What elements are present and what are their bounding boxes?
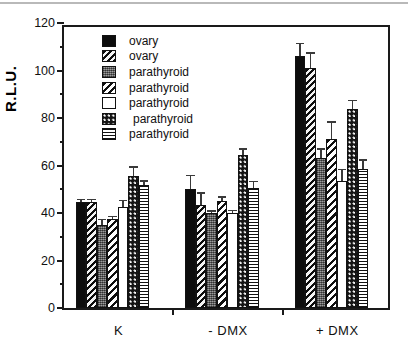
bar	[86, 202, 97, 308]
legend-item: parathyroid	[102, 64, 282, 80]
legend-swatch-diag2	[102, 82, 116, 94]
y-tick-label: 120	[34, 16, 55, 30]
bar	[107, 219, 118, 308]
bar	[206, 213, 217, 308]
y-tick-label: 80	[41, 111, 55, 125]
bar	[196, 205, 207, 308]
y-tick-label: 0	[48, 301, 55, 315]
bar	[238, 155, 249, 308]
y-tick-major	[57, 117, 64, 119]
error-bar-cap	[186, 175, 194, 177]
bar	[347, 109, 358, 309]
error-bar	[143, 182, 145, 185]
error-bar	[122, 201, 124, 207]
y-tick-minor	[60, 93, 64, 95]
legend-label: parathyroid	[129, 65, 189, 79]
bar	[316, 158, 327, 308]
error-bar	[242, 150, 244, 155]
error-bar-cap	[98, 219, 106, 221]
y-tick-minor	[60, 236, 64, 238]
error-bar	[112, 217, 114, 219]
error-bar-cap	[338, 169, 346, 171]
legend-label: ovary	[129, 49, 158, 63]
bar	[128, 176, 139, 308]
plot-area: 020406080100120 K- DMX+ DMX ovaryovarypa…	[62, 25, 390, 310]
error-bar	[310, 54, 312, 68]
legend-item: parathyroid	[102, 95, 282, 111]
legend-swatch-horiz	[102, 128, 116, 140]
error-bar-cap	[239, 148, 247, 150]
y-tick-label: 20	[41, 254, 55, 268]
bar	[185, 189, 196, 308]
bar	[326, 139, 337, 308]
bar	[358, 169, 369, 308]
bar	[295, 56, 306, 308]
y-tick-minor	[60, 188, 64, 190]
error-bar	[91, 200, 93, 202]
error-bar	[331, 123, 333, 140]
legend-item: parathyroid	[102, 111, 282, 127]
y-tick-major	[57, 70, 64, 72]
legend-label: parathyroid	[133, 112, 193, 126]
error-bar-cap	[218, 196, 226, 198]
error-bar	[341, 170, 343, 181]
error-bar-cap	[249, 181, 257, 183]
error-bar	[80, 200, 82, 202]
bar	[337, 181, 348, 308]
error-bar-cap	[77, 199, 85, 201]
legend-swatch-diag	[102, 50, 116, 62]
error-bar	[232, 211, 234, 213]
x-tick	[282, 308, 284, 315]
y-tick-minor	[60, 46, 64, 48]
bar	[76, 202, 87, 308]
legend-swatch-solid	[102, 35, 116, 47]
y-tick-minor	[60, 141, 64, 143]
error-bar-cap	[317, 148, 325, 150]
error-bar	[200, 194, 202, 205]
error-bar-cap	[359, 159, 367, 161]
y-tick-major	[57, 212, 64, 214]
error-bar	[101, 220, 103, 225]
y-axis-title: R.L.U.	[2, 66, 19, 112]
error-bar-cap	[228, 210, 236, 212]
legend-swatch-dots	[102, 113, 116, 125]
error-bar-cap	[348, 100, 356, 102]
error-bar	[362, 161, 364, 169]
error-bar	[320, 150, 322, 158]
y-tick-label: 40	[41, 206, 55, 220]
bar	[227, 213, 238, 308]
error-bar-cap	[87, 199, 95, 201]
legend-label: ovary	[129, 34, 158, 48]
error-bar-cap	[306, 52, 314, 54]
legend-item: parathyroid	[102, 127, 282, 143]
figure-top-rule	[0, 2, 408, 4]
legend-swatch-white	[102, 97, 116, 109]
error-bar	[133, 168, 135, 176]
figure-panel: R.L.U. 020406080100120 K- DMX+ DMX ovary…	[0, 0, 408, 341]
y-tick-label: 100	[34, 64, 55, 78]
y-tick-major	[57, 22, 64, 24]
legend-item: parathyroid	[102, 80, 282, 96]
error-bar	[211, 212, 213, 213]
error-bar-cap	[140, 180, 148, 182]
y-tick-major	[57, 307, 64, 309]
error-bar	[253, 182, 255, 188]
legend-swatch-gray	[102, 66, 116, 78]
legend-label: parathyroid	[129, 81, 189, 95]
error-bar-cap	[327, 121, 335, 123]
error-bar	[190, 176, 192, 189]
bar	[217, 201, 228, 308]
bar	[118, 207, 129, 308]
error-bar-cap	[119, 200, 127, 202]
error-bar-cap	[129, 166, 137, 168]
legend-item: ovary	[102, 33, 282, 49]
bar	[248, 188, 259, 308]
legend-item: ovary	[102, 49, 282, 65]
error-bar-cap	[207, 210, 215, 212]
chart-legend: ovaryovaryparathyroidparathyroidparathyr…	[102, 33, 282, 142]
legend-label: parathyroid	[129, 127, 189, 141]
y-tick-major	[57, 260, 64, 262]
error-bar-cap	[296, 43, 304, 45]
error-bar-cap	[197, 192, 205, 194]
error-bar	[299, 44, 301, 56]
